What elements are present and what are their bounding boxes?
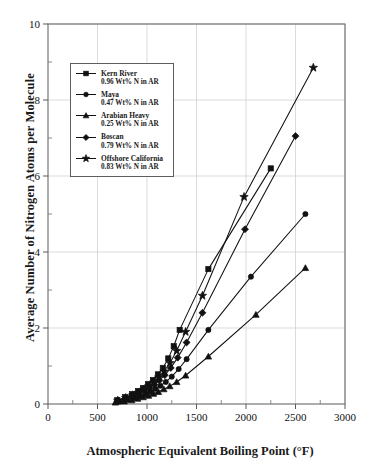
series-line <box>117 168 270 400</box>
data-point-diamond <box>242 226 249 233</box>
x-tick-label: 3000 <box>334 411 357 423</box>
data-point-circle <box>303 211 308 216</box>
legend-series-sublabel: 0.96 Wt% N in AR <box>101 79 169 86</box>
legend-series-name: Kern River <box>101 70 137 77</box>
legend-series-sublabel: 0.83 Wt% N in AR <box>101 164 169 171</box>
data-point-square <box>171 344 176 349</box>
data-point-circle <box>206 327 211 332</box>
data-point-star <box>82 154 89 161</box>
legend-series-name: Offshore California <box>101 155 163 162</box>
data-point-star <box>181 327 189 335</box>
data-point-circle <box>158 383 163 388</box>
data-point-diamond <box>174 354 181 361</box>
legend-series-sublabel: 0.47 Wt% N in AR <box>101 100 169 107</box>
data-point-circle <box>169 374 174 379</box>
legend-marker-triangle <box>75 111 97 120</box>
legend-row: Kern River <box>75 69 169 78</box>
legend-series-sublabel: 0.25 Wt% N in AR <box>101 121 169 128</box>
legend-entry: Arabian Heavy0.25 Wt% N in AR <box>75 111 169 128</box>
legend-series-name: Maya <box>101 91 119 98</box>
data-point-square <box>84 71 89 76</box>
chart-figure: 0500100015002000250030000246810 Average … <box>0 0 375 471</box>
data-point-diamond <box>292 133 299 140</box>
x-tick-label: 2500 <box>285 411 308 423</box>
series-1 <box>117 211 308 404</box>
x-tick-label: 0 <box>45 411 51 423</box>
chart-legend: Kern River0.96 Wt% N in ARMaya0.47 Wt% N… <box>70 63 174 177</box>
legend-marker-circle <box>75 90 97 99</box>
data-point-triangle <box>173 379 180 385</box>
legend-series-name: Boscan <box>101 133 124 140</box>
legend-row: Maya <box>75 90 169 99</box>
x-tick-label: 1500 <box>186 411 209 423</box>
x-tick-label: 1000 <box>136 411 159 423</box>
legend-series-sublabel: 0.79 Wt% N in AR <box>101 143 169 150</box>
legend-row: Arabian Heavy <box>75 111 169 120</box>
legend-entry: Kern River0.96 Wt% N in AR <box>75 69 169 86</box>
x-axis-title: Atmospheric Equivalent Boiling Point (°F… <box>40 444 360 459</box>
data-point-star <box>309 63 317 71</box>
x-tick-label: 2000 <box>235 411 258 423</box>
series-2 <box>112 265 309 405</box>
chart-svg: 0500100015002000250030000246810 <box>0 0 375 471</box>
legend-marker-star <box>75 154 97 163</box>
data-point-circle <box>163 379 168 384</box>
legend-entry: Offshore California0.83 Wt% N in AR <box>75 154 169 171</box>
data-point-circle <box>248 274 253 279</box>
legend-marker-square <box>75 69 97 78</box>
legend-marker-diamond <box>75 133 97 142</box>
series-line <box>115 268 305 403</box>
data-point-star <box>240 192 248 200</box>
plot-area: 0500100015002000250030000246810 <box>0 0 375 471</box>
y-axis-title: Average Number of Nitrogen Atoms per Mol… <box>23 8 38 408</box>
legend-series-name: Arabian Heavy <box>101 112 149 119</box>
data-point-triangle <box>302 265 309 271</box>
legend-entry: Boscan0.79 Wt% N in AR <box>75 133 169 150</box>
data-point-diamond <box>199 309 206 316</box>
legend-row: Boscan <box>75 133 169 142</box>
data-point-square <box>268 166 273 171</box>
legend-entry: Maya0.47 Wt% N in AR <box>75 90 169 107</box>
x-tick-label: 500 <box>89 411 106 423</box>
data-point-circle <box>184 357 189 362</box>
data-point-circle <box>84 92 89 97</box>
data-point-square <box>206 267 211 272</box>
data-point-diamond <box>83 134 89 140</box>
data-point-circle <box>176 366 181 371</box>
legend-row: Offshore California <box>75 154 169 163</box>
data-point-square <box>177 327 182 332</box>
data-point-star <box>198 291 206 299</box>
series-0 <box>115 166 274 403</box>
data-point-diamond <box>183 339 190 346</box>
